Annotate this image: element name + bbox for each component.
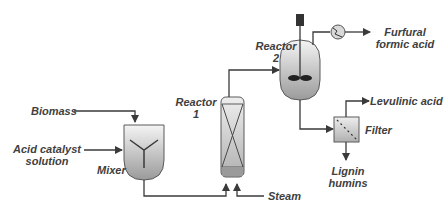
reactor1-line1: Reactor [174,96,218,108]
lignin-label: Lignin humins [326,165,370,189]
biomass-label: Biomass [31,105,77,117]
lignin-line1: Lignin [326,165,370,177]
furfural-line1: Furfural [374,26,436,38]
acid-catalyst-line2: solution [12,155,82,167]
steam-stream [237,184,264,196]
reactor2-line2: 2 [254,52,298,64]
lignin-line2: humins [326,177,370,189]
acid-catalyst-label: Acid catalyst solution [12,143,82,167]
reactor2-to-filter-stream [300,100,333,129]
mixer-vessel [124,125,164,180]
mixer-label: Mixer [97,164,126,176]
filter-unit [334,117,359,142]
acid-catalyst-line1: Acid catalyst [12,143,82,155]
reactor1-label: Reactor 1 [174,96,218,120]
reactor1-line2: 1 [174,108,218,120]
reactor2-label: Reactor 2 [254,40,298,64]
levulinic-label: Levulinic acid [370,95,443,107]
mixer-to-reactor1-stream [144,180,226,196]
steam-label: Steam [268,190,301,202]
reactor2-line1: Reactor [254,40,298,52]
biomass-stream [74,111,135,122]
furfural-label: Furfural formic acid [374,26,436,50]
motor-icon [296,14,304,26]
furfural-line2: formic acid [374,38,436,50]
reactor1-to-reactor2-stream [229,70,279,97]
reactor2-vapor-stream [313,32,330,45]
filter-label: Filter [365,124,392,136]
condenser-icon [331,25,345,39]
reactor1-column [221,97,244,177]
levulinic-stream [346,101,369,117]
impeller-icon [288,75,300,81]
